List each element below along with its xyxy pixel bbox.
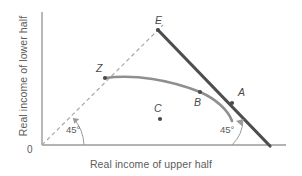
angle-label-left-45: 45° xyxy=(66,124,80,135)
x-axis-title: Real income of upper half xyxy=(0,158,302,170)
point-label-E: E xyxy=(155,14,162,26)
point-label-C: C xyxy=(154,102,162,114)
y-axis-title: Real income of lower half xyxy=(17,1,29,151)
point-marker-B xyxy=(198,90,202,94)
point-label-B: B xyxy=(194,96,201,108)
thick-45-line xyxy=(158,30,270,146)
point-marker-C xyxy=(158,117,162,121)
point-label-Z: Z xyxy=(96,62,102,74)
diagram-canvas xyxy=(0,0,302,176)
point-label-A: A xyxy=(238,86,245,98)
point-marker-Z xyxy=(103,76,107,80)
left-angle-arrowhead xyxy=(71,115,80,123)
dashed-45-ray xyxy=(42,25,163,145)
economics-diagram: E Z A B C 45° 45° 0 Real income of upper… xyxy=(0,0,302,176)
angle-label-right-45: 45° xyxy=(220,124,234,135)
point-marker-A xyxy=(230,101,234,105)
frontier-curve xyxy=(105,77,232,121)
point-marker-E xyxy=(156,28,160,32)
